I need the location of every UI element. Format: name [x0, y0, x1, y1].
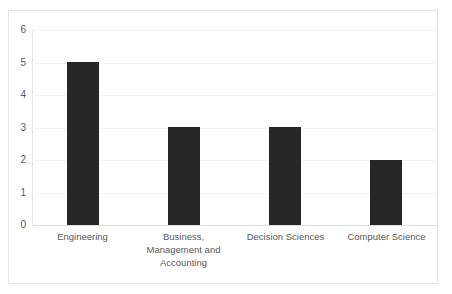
y-axis-tick-label: 1	[20, 188, 26, 198]
y-axis-tick-label: 5	[20, 58, 26, 68]
y-axis-tick-label: 4	[20, 90, 26, 100]
x-axis-tick-labels: EngineeringBusiness,Management andAccoun…	[32, 227, 437, 279]
bar[interactable]	[168, 127, 200, 225]
y-axis-tick-label: 3	[20, 123, 26, 133]
bar[interactable]	[67, 62, 99, 225]
x-axis-tick-label: Business,Management andAccounting	[133, 231, 234, 269]
gridline	[32, 30, 437, 31]
bar[interactable]	[269, 127, 301, 225]
y-axis-tick-label: 6	[20, 25, 26, 35]
bar-chart-figure: 0123456 EngineeringBusiness,Management a…	[8, 10, 438, 284]
plot-area	[32, 30, 437, 225]
x-axis-tick-label: Computer Science	[336, 231, 437, 244]
y-axis-tick-labels: 0123456	[9, 30, 26, 225]
y-axis-tick-label: 2	[20, 155, 26, 165]
y-axis-tick-label: 0	[20, 220, 26, 230]
bar[interactable]	[370, 160, 402, 225]
x-axis-tick-label: Decision Sciences	[235, 231, 336, 244]
axis-baseline	[32, 225, 437, 226]
x-axis-tick-label: Engineering	[32, 231, 133, 244]
